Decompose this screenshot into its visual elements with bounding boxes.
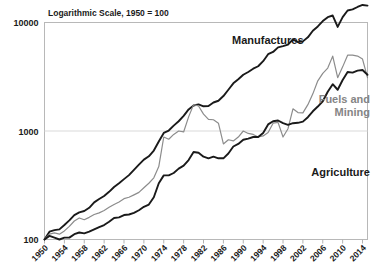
y-axis-tick-label: 1000 [18, 127, 38, 137]
series-label-fuels-and-mining-line1: Fuels and [319, 93, 370, 105]
series-label-manufactures: Manufactures [232, 34, 304, 46]
line-chart: 100100010000 195019541958196219661970197… [0, 0, 379, 276]
y-axis-tick-label: 100 [23, 235, 38, 245]
series-label-agriculture: Agriculture [311, 166, 370, 178]
chart-title: Logarithmic Scale, 1950 = 100 [48, 8, 169, 18]
y-axis-tick-label: 10000 [13, 18, 38, 28]
series-label-fuels-and-mining-line2: Mining [335, 106, 370, 118]
chart-container: 100100010000 195019541958196219661970197… [0, 0, 379, 276]
chart-background [0, 0, 379, 276]
